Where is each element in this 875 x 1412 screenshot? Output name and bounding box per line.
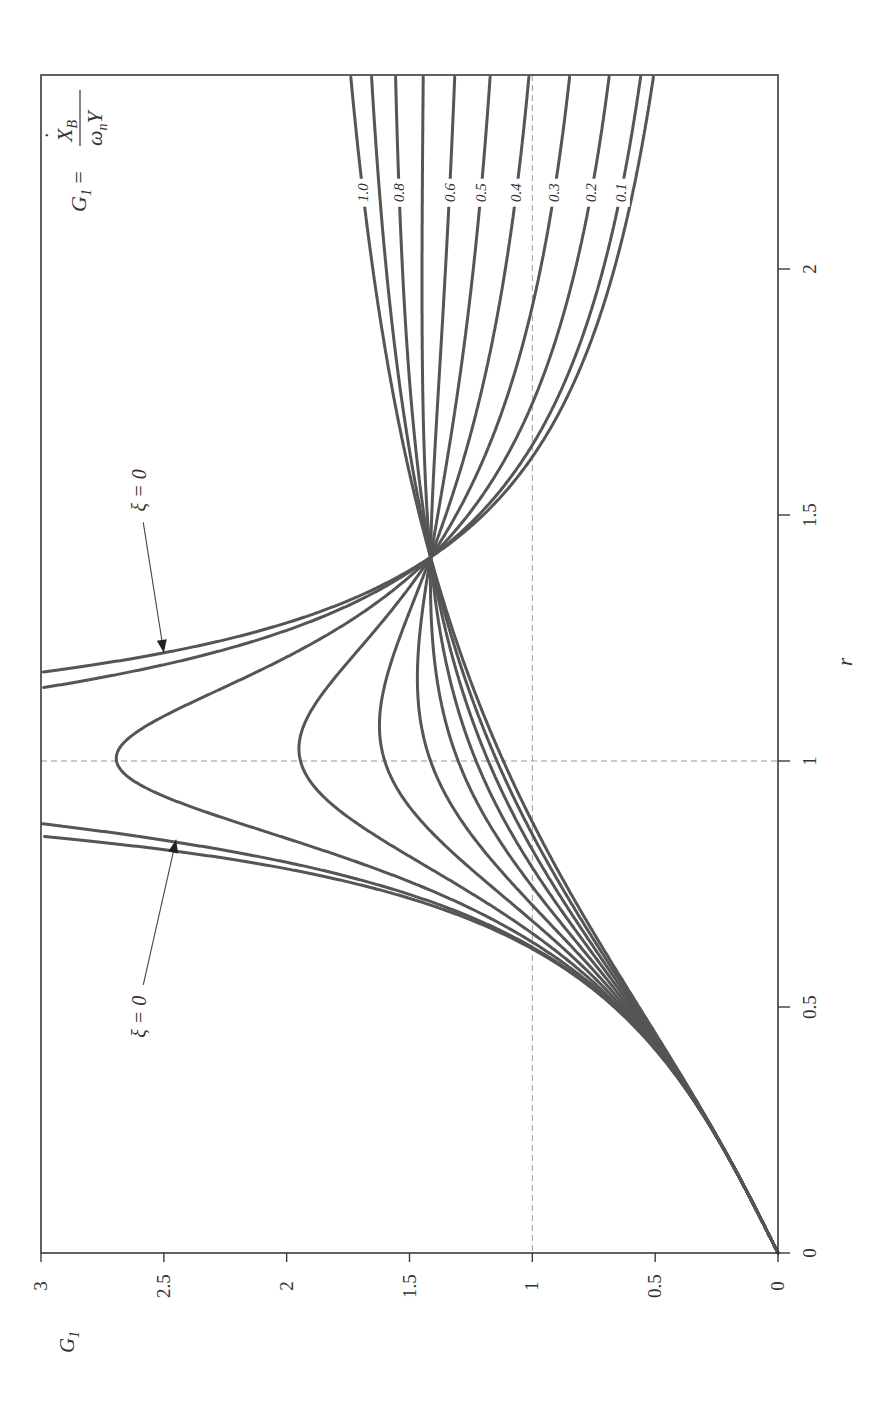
curve-label: 0.8 <box>391 183 407 202</box>
curve-label: 0.3 <box>546 183 562 202</box>
formula-denominator: ω <box>82 130 107 146</box>
annotation-arrow <box>143 840 176 985</box>
curve-label: 1.0 <box>355 183 371 202</box>
formula-lhs: G <box>66 196 91 212</box>
g1-tick-label: 2.5 <box>153 1274 174 1298</box>
r-axis: 00.511.52 <box>778 264 820 1258</box>
g1-tick-label: 0.5 <box>644 1274 665 1298</box>
curve-xi-1 <box>351 77 778 1253</box>
r-tick-label: 1 <box>799 756 820 766</box>
g1-tick-label: 1.5 <box>399 1274 420 1298</box>
formula-lhs-sub: 1 <box>79 189 94 196</box>
annotation-xi-zero: ξ = 0 <box>128 996 150 1038</box>
r-tick-label: 2 <box>799 264 820 274</box>
g1-axis-title: G1 <box>55 1331 82 1353</box>
curve-xi-0.1 <box>43 824 778 1253</box>
curve-label: 0.6 <box>442 183 458 202</box>
svg-text:G1=: G1= <box>66 170 94 212</box>
g1-tick-label: 2 <box>276 1281 297 1291</box>
curve-label: 0.1 <box>613 183 629 202</box>
curve-xi-0 <box>43 77 653 672</box>
plot-frame <box>41 75 778 1253</box>
curve-label: 0.2 <box>583 183 599 202</box>
g1-axis-title-sub: 1 <box>67 1331 82 1338</box>
curve-xi-0.8 <box>396 77 778 1253</box>
g1-tick-label: 1 <box>521 1281 542 1291</box>
arrowhead-icon <box>157 639 167 653</box>
r-axis-title: r <box>833 657 857 666</box>
formula: G1= XB · ωnY <box>36 90 110 212</box>
g1-tick-label: 0 <box>767 1281 788 1291</box>
curve-xi-0.5 <box>417 77 778 1253</box>
curve-xi-0 <box>45 837 779 1254</box>
g1-axis-title-main: G <box>55 1338 79 1353</box>
damping-curves <box>43 77 778 1253</box>
curve-labels: 0.10.20.30.40.50.60.81.0 <box>354 179 630 207</box>
annotation-xi-zero: ξ = 0 <box>128 469 150 511</box>
curve-xi-0.6 <box>430 77 778 1253</box>
g1-axis: 00.511.522.53 <box>30 1253 788 1298</box>
formula-numerator-sub: B <box>65 120 80 129</box>
curve-label: 0.4 <box>508 183 524 202</box>
curve-label: 0.5 <box>473 183 489 202</box>
svg-text:G1: G1 <box>55 1331 82 1353</box>
transmissibility-chart: 0.10.20.30.40.50.60.81.0 00.511.522.53 0… <box>0 0 875 1412</box>
formula-equals: = <box>66 170 91 185</box>
svg-text:XB: XB <box>52 120 80 143</box>
curve-xi-0.9 <box>372 77 778 1253</box>
curve-xi-0.1 <box>44 77 641 688</box>
r-tick-label: 0 <box>799 1248 820 1258</box>
reference-lines <box>41 75 778 1253</box>
xi-zero-annotations: ξ = 0ξ = 0 <box>128 469 178 1038</box>
formula-dot: · <box>36 133 58 138</box>
formula-denominator-sub: n <box>95 123 110 130</box>
annotation-arrow <box>143 522 164 652</box>
r-tick-label: 0.5 <box>799 995 820 1019</box>
svg-text:ωnY: ωnY <box>82 108 110 146</box>
g1-tick-label: 3 <box>30 1281 51 1291</box>
formula-denominator-tail: Y <box>82 108 107 123</box>
r-tick-label: 1.5 <box>799 503 820 527</box>
